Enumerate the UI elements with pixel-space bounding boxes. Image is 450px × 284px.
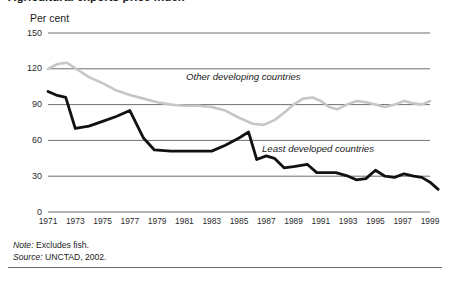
source-line: Source: UNCTAD, 2002. [13,252,106,264]
figure-notes: Note: Excludes fish. Source: UNCTAD, 200… [13,240,106,263]
note-text: Excludes fish. [36,240,89,250]
figure-container: Agricultural exports price index Per cen… [0,0,450,284]
x-tick-label: 1999 [413,216,447,226]
series-label-least-developed: Least developed countries [262,143,374,154]
note-line: Note: Excludes fish. [13,240,106,252]
y-tick-label: 90 [20,99,42,109]
series-label-other-developing: Other developing countries [186,71,301,82]
y-tick-label: 120 [20,63,42,73]
gridlines [48,33,430,212]
y-tick-label: 30 [20,171,42,181]
y-tick-label: 150 [20,28,42,38]
y-tick-label: 0 [20,207,42,217]
source-lead: Source: [13,252,43,262]
bottom-divider [8,267,442,268]
source-text: UNCTAD, 2002. [45,252,106,262]
note-lead: Note: [13,240,34,250]
y-tick-label: 60 [20,135,42,145]
